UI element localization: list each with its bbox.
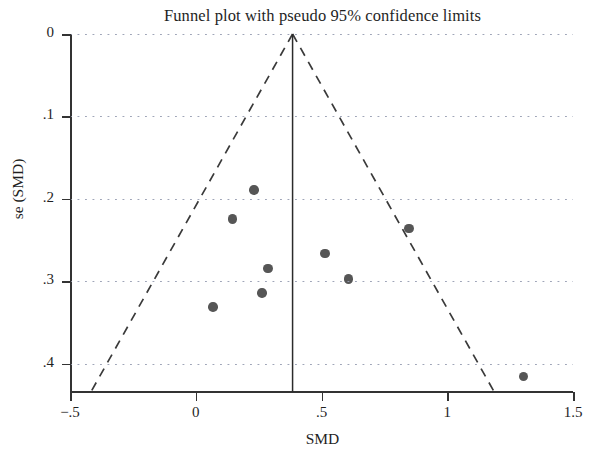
y-axis-tick-label: .3	[8, 271, 54, 288]
gridline-y	[70, 199, 573, 200]
x-axis-tick	[196, 392, 198, 401]
gridline-y	[70, 364, 573, 365]
funnel-plot-figure: Funnel plot with pseudo 95% confidence l…	[0, 0, 609, 465]
y-axis-tick-label: .4	[8, 354, 54, 371]
x-axis-tick-label: .5	[292, 404, 352, 421]
y-axis-tick	[62, 281, 71, 283]
y-axis-tick-label: .1	[8, 106, 54, 123]
data-point	[257, 288, 267, 298]
data-point	[249, 185, 259, 195]
pseudo-ci-line-right	[293, 34, 495, 392]
y-axis-tick-label: .2	[8, 189, 54, 206]
x-axis-tick-label: 1	[417, 404, 477, 421]
data-point	[320, 249, 330, 259]
x-axis-tick	[447, 392, 449, 401]
gridline-y	[70, 281, 573, 282]
x-axis-title: SMD	[0, 430, 609, 448]
y-axis-tick-label: 0	[8, 24, 54, 41]
y-axis-tick	[62, 199, 71, 201]
x-axis-tick-label: 0	[166, 404, 226, 421]
data-point	[228, 214, 238, 224]
y-axis-tick	[62, 34, 71, 36]
data-point	[404, 224, 414, 234]
gridline-y	[70, 116, 573, 117]
x-axis-tick	[573, 392, 575, 401]
gridline-y	[70, 34, 573, 35]
chart-title: Funnel plot with pseudo 95% confidence l…	[0, 6, 609, 26]
plot-area	[70, 34, 573, 392]
pseudo-ci-line-left	[91, 34, 293, 392]
data-point	[263, 264, 273, 274]
y-axis-tick	[62, 116, 71, 118]
funnel-lines-layer	[70, 34, 573, 392]
data-point	[208, 302, 218, 312]
x-axis-tick	[322, 392, 324, 401]
x-axis-tick	[70, 392, 72, 401]
x-axis-tick-label: −.5	[40, 404, 100, 421]
x-axis-tick-label: 1.5	[543, 404, 603, 421]
y-axis-tick	[62, 364, 71, 366]
